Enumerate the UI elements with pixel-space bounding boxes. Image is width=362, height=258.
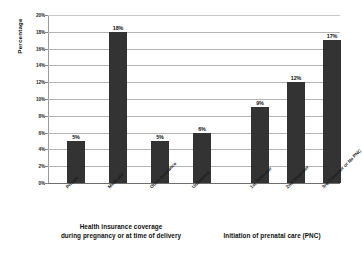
y-tick-label: 6% xyxy=(39,130,45,135)
y-tick-label: 0% xyxy=(39,181,45,186)
bar-value-label: 9% xyxy=(256,100,264,106)
bar-value-label: 6% xyxy=(198,126,206,132)
y-tick-mark xyxy=(45,49,48,50)
bar-value-label: 18% xyxy=(113,25,124,31)
y-tick-label: 14% xyxy=(36,63,45,68)
gridline xyxy=(48,15,340,16)
y-tick-label: 12% xyxy=(36,80,45,85)
y-tick-label: 4% xyxy=(39,147,45,152)
y-tick-mark xyxy=(45,65,48,66)
caption-line: during pregnancy or at time of delivery xyxy=(36,231,206,240)
bar-value-label: 5% xyxy=(72,134,80,140)
y-tick-label: 10% xyxy=(36,97,45,102)
bar: 17% xyxy=(323,40,341,183)
y-tick-mark xyxy=(45,133,48,134)
bar-value-label: 5% xyxy=(156,134,164,140)
y-tick-label: 20% xyxy=(36,13,45,18)
y-tick-label: 16% xyxy=(36,46,45,51)
gridline xyxy=(48,32,340,33)
y-tick-mark xyxy=(45,149,48,150)
y-tick-mark xyxy=(45,99,48,100)
gridline xyxy=(48,49,340,50)
group-caption-health-insurance: Health insurance coverageduring pregnanc… xyxy=(36,222,206,240)
bar-value-label: 17% xyxy=(327,33,338,39)
group-caption-prenatal-care: Initiation of prenatal care (PNC) xyxy=(196,231,348,240)
caption-line: Initiation of prenatal care (PNC) xyxy=(196,231,348,240)
gridline xyxy=(48,65,340,66)
y-axis-title: Percentage xyxy=(16,0,30,81)
y-tick-label: 8% xyxy=(39,113,45,118)
caption-line: Health insurance coverage xyxy=(36,222,206,231)
plot-area: 0%2%4%6%8%10%12%14%16%18%20% 5%18%5%6%9%… xyxy=(48,15,340,183)
y-tick-mark xyxy=(45,116,48,117)
y-tick-mark xyxy=(45,82,48,83)
bar: 18% xyxy=(109,32,127,183)
y-tick-mark xyxy=(45,32,48,33)
bar-value-label: 12% xyxy=(291,75,302,81)
y-tick-mark xyxy=(45,166,48,167)
y-tick-label: 2% xyxy=(39,164,45,169)
y-tick-label: 18% xyxy=(36,29,45,34)
y-tick-mark xyxy=(45,183,48,184)
y-tick-mark xyxy=(45,15,48,16)
